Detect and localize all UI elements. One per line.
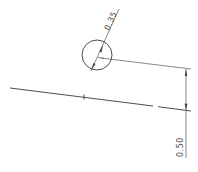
offset-arrow-bottom [185,104,187,111]
technical-drawing: 0.35 0.50 [0,0,198,172]
offset-arrow-top [185,70,187,77]
hole-circle[interactable] [82,40,112,70]
hole-center-extension-line [101,58,191,69]
offset-dimension-text: 0.50 [176,137,185,157]
hole-center-mark [98,58,104,59]
diameter-dimension-text: 0.35 [103,10,119,32]
base-line-left [10,88,153,106]
diameter-arrow-upper [100,45,104,53]
diameter-arrow-lower [91,63,96,70]
